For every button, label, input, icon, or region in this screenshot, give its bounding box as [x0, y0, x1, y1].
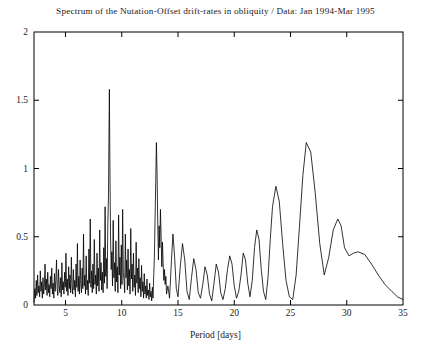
spectrum-chart — [0, 0, 431, 360]
y-tick-label: 1 — [0, 164, 28, 174]
x-tick-label: 35 — [398, 308, 408, 318]
y-tick-label: 0.5 — [0, 232, 28, 242]
x-axis-label: Period [days] — [0, 330, 431, 340]
x-tick-label: 20 — [230, 308, 240, 318]
x-tick-label: 10 — [117, 308, 127, 318]
x-tick-label: 30 — [342, 308, 352, 318]
figure-container: Spectrum of the Nutation-Offset drift-ra… — [0, 0, 431, 360]
x-tick-label: 25 — [286, 308, 296, 318]
y-tick-label: 1.5 — [0, 95, 28, 105]
y-tick-label: 2 — [0, 27, 28, 37]
y-tick-label: 0 — [0, 300, 28, 310]
spectrum-line — [34, 89, 403, 302]
x-tick-label: 15 — [173, 308, 183, 318]
x-tick-label: 5 — [63, 308, 68, 318]
